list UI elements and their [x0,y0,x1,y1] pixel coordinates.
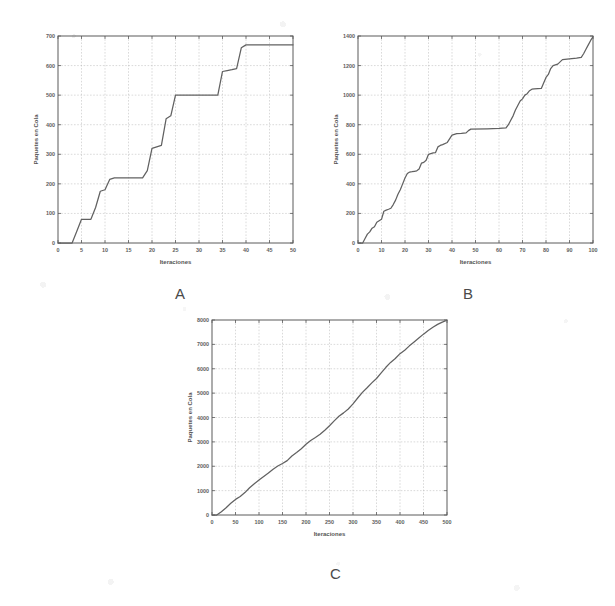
svg-text:7000: 7000 [197,341,209,347]
svg-text:Iteraciones: Iteraciones [160,259,192,265]
svg-text:10: 10 [379,247,385,253]
svg-text:250: 250 [325,519,334,525]
svg-text:300: 300 [46,151,55,157]
chart-b-plot: 0102030405060708090100020040060080010001… [318,22,603,272]
svg-text:45: 45 [267,247,273,253]
svg-text:0: 0 [357,247,360,253]
svg-text:15: 15 [126,247,132,253]
svg-text:0: 0 [352,240,355,246]
panel-caption-c: C [330,565,341,582]
svg-text:1000: 1000 [197,488,209,494]
svg-text:3000: 3000 [197,439,209,445]
svg-text:70: 70 [520,247,526,253]
svg-text:90: 90 [567,247,573,253]
svg-text:40: 40 [243,247,249,253]
svg-text:800: 800 [346,122,355,128]
chart-panel-a: 0510152025303540455001002003004005006007… [20,22,305,272]
svg-text:10: 10 [102,247,108,253]
svg-text:100: 100 [255,519,264,525]
svg-text:200: 200 [346,210,355,216]
svg-text:0: 0 [211,519,214,525]
svg-text:1400: 1400 [343,33,355,39]
svg-text:1200: 1200 [343,63,355,69]
svg-text:400: 400 [396,519,405,525]
svg-text:1000: 1000 [343,92,355,98]
svg-text:450: 450 [419,519,428,525]
svg-text:500: 500 [443,519,452,525]
svg-text:350: 350 [372,519,381,525]
svg-text:Iteraciones: Iteraciones [314,531,346,537]
svg-text:50: 50 [473,247,479,253]
svg-text:Paquetes en Cola: Paquetes en Cola [33,114,39,165]
svg-text:0: 0 [52,240,55,246]
svg-text:25: 25 [173,247,179,253]
svg-text:100: 100 [46,210,55,216]
svg-text:0: 0 [206,512,209,518]
chart-panel-c: 0501001502002503003504004505000100020003… [170,315,455,550]
svg-text:40: 40 [449,247,455,253]
svg-text:80: 80 [543,247,549,253]
svg-text:5: 5 [80,247,83,253]
svg-text:0: 0 [57,247,60,253]
panel-caption-a: A [175,285,186,302]
svg-text:5000: 5000 [197,390,209,396]
svg-text:Iteraciones: Iteraciones [460,259,492,265]
svg-text:400: 400 [346,181,355,187]
svg-text:60: 60 [496,247,502,253]
panel-caption-b: B [463,285,474,302]
chart-a-plot: 0510152025303540455001002003004005006007… [20,22,305,272]
chart-panel-b: 0102030405060708090100020040060080010001… [318,22,603,272]
svg-text:700: 700 [46,33,55,39]
svg-text:2000: 2000 [197,463,209,469]
svg-text:300: 300 [349,519,358,525]
svg-text:400: 400 [46,122,55,128]
svg-text:Paquetes en Cola: Paquetes en Cola [187,392,193,443]
svg-text:35: 35 [220,247,226,253]
svg-text:4000: 4000 [197,415,209,421]
svg-text:50: 50 [290,247,296,253]
svg-text:600: 600 [46,63,55,69]
svg-text:Paquetes en Cola: Paquetes en Cola [333,114,339,165]
svg-text:30: 30 [426,247,432,253]
svg-text:8000: 8000 [197,317,209,323]
svg-text:20: 20 [149,247,155,253]
svg-text:100: 100 [589,247,598,253]
svg-text:50: 50 [233,519,239,525]
svg-text:600: 600 [346,151,355,157]
svg-text:200: 200 [46,181,55,187]
svg-text:200: 200 [302,519,311,525]
svg-text:500: 500 [46,92,55,98]
svg-text:20: 20 [402,247,408,253]
svg-text:30: 30 [196,247,202,253]
chart-c-plot: 0501001502002503003504004505000100020003… [170,315,455,550]
svg-text:6000: 6000 [197,366,209,372]
svg-text:150: 150 [278,519,287,525]
